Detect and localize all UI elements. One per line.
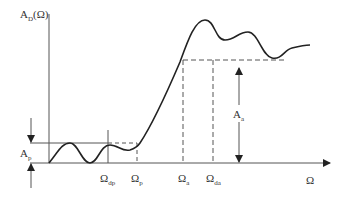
y-axis-label: AD(Ω) bbox=[20, 8, 49, 23]
diagram-canvas: AD(Ω) Ap Aa Ωdp Ωp Ωa Ωda Ω bbox=[0, 0, 340, 199]
omega-da-label: Ωda bbox=[206, 172, 222, 187]
omega-p-label: Ωp bbox=[131, 172, 143, 187]
aa-label: Aa bbox=[233, 108, 245, 123]
x-axis-label: Ω bbox=[306, 174, 314, 186]
omega-a-label: Ωa bbox=[178, 172, 190, 187]
filter-response-diagram: AD(Ω) Ap Aa Ωdp Ωp Ωa Ωda Ω bbox=[0, 0, 340, 199]
ap-label: Ap bbox=[20, 147, 32, 162]
response-curve bbox=[49, 20, 310, 163]
omega-dp-label: Ωdp bbox=[100, 172, 116, 187]
